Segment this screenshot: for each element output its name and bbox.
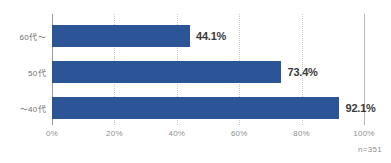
bar-value-1: 73.4% — [288, 66, 318, 78]
x-tick-label-40: 40% — [168, 129, 185, 138]
bar-chart: 60代〜 50代 〜40代 44.1% 73.4% 92.1% 0% 20% 4… — [0, 0, 391, 163]
bar-value-2: 92.1% — [346, 102, 376, 114]
x-tick-label-0: 0% — [46, 129, 58, 138]
bar-1 — [52, 61, 281, 83]
x-tick-label-20: 20% — [106, 129, 123, 138]
y-axis-labels: 60代〜 50代 〜40代 — [0, 0, 46, 163]
bar-2 — [52, 97, 339, 119]
x-tick-label-100: 100% — [353, 129, 374, 138]
y-axis-label-0: 60代〜 — [20, 31, 47, 42]
bar-0 — [52, 25, 190, 47]
x-tick-label-60: 60% — [231, 129, 248, 138]
bar-value-0: 44.1% — [196, 30, 226, 42]
y-axis-label-1: 50代 — [28, 67, 46, 78]
y-axis-label-2: 〜40代 — [20, 103, 47, 114]
sample-size-annotation: n=351 — [358, 145, 382, 154]
x-tick-label-80: 80% — [293, 129, 310, 138]
plot-area: 44.1% 73.4% 92.1% — [52, 14, 364, 125]
